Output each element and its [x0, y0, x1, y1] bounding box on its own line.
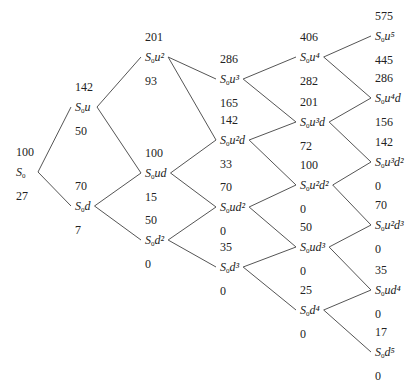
node-price: 100: [145, 143, 167, 163]
node-label: S0u⁵: [375, 26, 395, 50]
node-price: 70: [75, 176, 91, 196]
node-price: 142: [220, 110, 245, 130]
node-option-value: 0: [375, 366, 395, 382]
tree-edge: [333, 185, 371, 225]
node-label: S0u⁴d: [375, 88, 401, 112]
tree-edge: [168, 57, 216, 140]
tree-node: 17S0d⁵0: [375, 322, 395, 382]
node-label: S0d⁴: [300, 300, 320, 324]
tree-edge: [329, 225, 371, 247]
node-option-value: 0: [300, 324, 320, 344]
node-label: S0u⁴: [300, 47, 320, 71]
node-label: S0d³: [220, 257, 239, 281]
tree-edge: [95, 173, 142, 206]
tree-edge: [329, 247, 371, 290]
node-label: S0u³: [220, 69, 239, 93]
node-option-value: 15: [145, 187, 167, 207]
node-price: 25: [300, 280, 320, 300]
node-price: 575: [375, 6, 395, 26]
tree-node: 50S0d²0: [145, 210, 164, 274]
node-price: 406: [300, 27, 320, 47]
tree-node: 406S0u⁴282: [300, 27, 320, 91]
tree-node: 70S0d7: [75, 176, 91, 240]
node-option-value: 0: [375, 304, 401, 324]
node-label: S0d: [75, 196, 91, 220]
node-option-value: 93: [145, 71, 164, 91]
tree-edge: [249, 207, 296, 247]
tree-edge: [329, 122, 371, 162]
tree-node: 100S0ud15: [145, 143, 167, 207]
tree-edge: [243, 79, 296, 122]
tree-edge: [249, 122, 296, 140]
tree-edge: [324, 310, 371, 352]
tree-node: 70S0u²d³0: [375, 195, 404, 259]
node-option-value: 0: [375, 176, 404, 196]
node-label: S0ud: [145, 163, 167, 187]
tree-edge: [324, 290, 371, 310]
node-option-value: 33: [220, 154, 245, 174]
node-label: S0d⁵: [375, 342, 395, 366]
node-label: S0u²d: [220, 130, 245, 154]
tree-node: 50S0ud³0: [300, 217, 325, 281]
tree-edge: [243, 267, 296, 310]
node-price: 286: [220, 49, 239, 69]
tree-node: 142S0u²d33: [220, 110, 245, 174]
tree-edge: [243, 57, 296, 79]
node-price: 35: [220, 237, 239, 257]
node-price: 50: [145, 210, 164, 230]
node-price: 142: [375, 132, 404, 152]
node-price: 201: [300, 92, 325, 112]
tree-edge: [324, 36, 371, 57]
node-label: S0: [16, 162, 34, 186]
node-label: S0u³d: [300, 112, 325, 136]
node-price: 17: [375, 322, 395, 342]
tree-edge: [168, 240, 216, 267]
node-price: 100: [16, 142, 34, 162]
node-option-value: 0: [300, 261, 325, 281]
node-price: 100: [300, 155, 329, 175]
node-label: S0u: [75, 97, 93, 121]
tree-edge: [171, 140, 217, 173]
tree-node: 201S0u³d72: [300, 92, 325, 156]
tree-node: 35S0d³0: [220, 237, 239, 301]
tree-node: 286S0u⁴d156: [375, 68, 401, 132]
node-label: S0u²: [145, 47, 164, 71]
node-option-value: 72: [300, 136, 325, 156]
tree-edge: [243, 247, 296, 267]
tree-edge: [329, 98, 371, 122]
node-label: S0u³d²: [375, 152, 404, 176]
node-option-value: 0: [300, 199, 329, 219]
tree-node: 35S0ud⁴0: [375, 260, 401, 324]
node-price: 70: [220, 177, 245, 197]
tree-edge: [97, 57, 141, 107]
node-price: 286: [375, 68, 401, 88]
node-option-value: 0: [375, 239, 404, 259]
tree-node: 25S0d⁴0: [300, 280, 320, 344]
node-label: S0ud⁴: [375, 280, 401, 304]
node-option-value: 445: [375, 50, 395, 70]
node-label: S0u²d²: [300, 175, 329, 199]
node-option-value: 27: [16, 186, 34, 206]
node-price: 50: [300, 217, 325, 237]
tree-node: 100S0u²d²0: [300, 155, 329, 219]
tree-node: 142S0u50: [75, 77, 93, 141]
tree-node: 201S0u²93: [145, 27, 164, 91]
node-option-value: 0: [145, 254, 164, 274]
node-label: S0u²d³: [375, 215, 404, 239]
node-option-value: 7: [75, 220, 91, 240]
tree-edge: [95, 206, 142, 240]
tree-edge: [168, 57, 216, 79]
tree-edges: [0, 0, 417, 382]
tree-node: 70S0ud²0: [220, 177, 245, 241]
node-option-value: 282: [300, 71, 320, 91]
tree-edge: [168, 207, 216, 240]
tree-edge: [171, 173, 217, 207]
node-price: 201: [145, 27, 164, 47]
tree-node: 286S0u³165: [220, 49, 239, 113]
tree-edge: [38, 107, 71, 172]
node-label: S0ud³: [300, 237, 325, 261]
tree-node: 142S0u³d²0: [375, 132, 404, 196]
tree-edge: [249, 185, 296, 207]
tree-edge: [333, 162, 371, 185]
tree-edge: [324, 57, 371, 98]
